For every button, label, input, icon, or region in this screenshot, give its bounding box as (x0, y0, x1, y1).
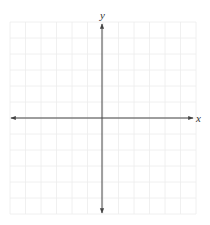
y-axis-label: y (99, 9, 105, 21)
x-axis-label: x (195, 112, 201, 124)
coordinate-plane: y x (0, 0, 210, 225)
